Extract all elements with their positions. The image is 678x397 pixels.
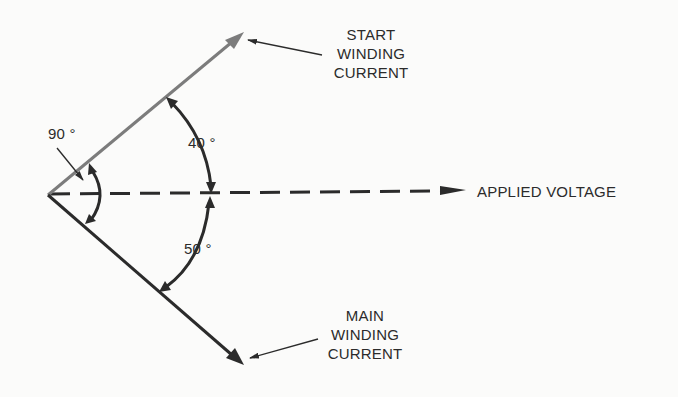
- voltage-arrowhead-icon: [440, 186, 466, 195]
- start-winding-current-label: START WINDING CURRENT: [326, 25, 416, 82]
- main-label-line1: MAIN: [320, 306, 410, 325]
- main-label-leader: [250, 339, 318, 358]
- angle-90-label: 90 °: [48, 124, 76, 143]
- start-label-line2: WINDING: [326, 44, 416, 63]
- start-label-leader: [248, 40, 322, 55]
- angle-50-label: 50 °: [184, 239, 212, 258]
- applied-voltage-label: APPLIED VOLTAGE: [477, 182, 616, 201]
- main-winding-vector: [48, 195, 244, 365]
- start-label-line3: CURRENT: [326, 63, 416, 82]
- main-label-line3: CURRENT: [320, 344, 410, 363]
- angle-40-label: 40 °: [188, 133, 216, 152]
- main-winding-current-label: MAIN WINDING CURRENT: [320, 306, 410, 363]
- main-label-line2: WINDING: [320, 325, 410, 344]
- applied-voltage-vector: [50, 186, 466, 195]
- phasor-diagram: START WINDING CURRENT MAIN WINDING CURRE…: [0, 0, 678, 397]
- start-winding-vector: [48, 32, 244, 195]
- start-label-line1: START: [326, 25, 416, 44]
